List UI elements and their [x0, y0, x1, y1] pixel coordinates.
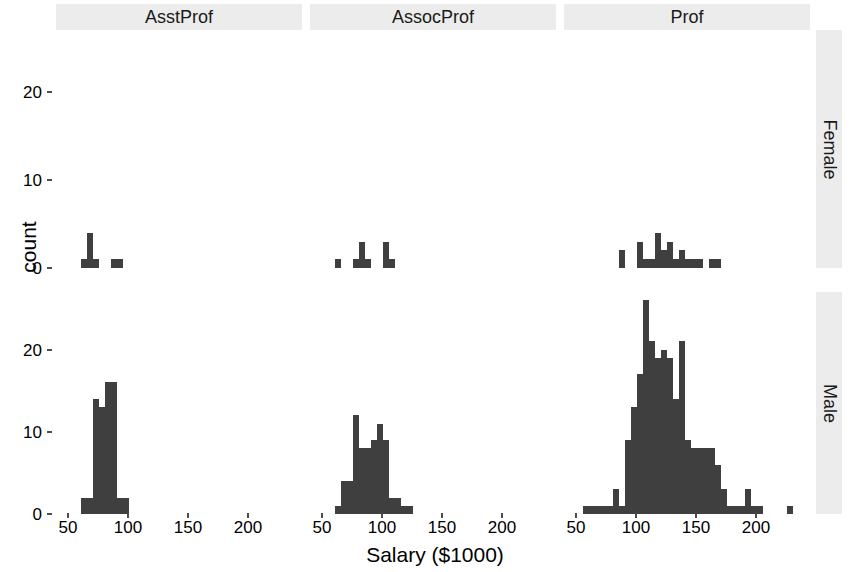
y-tick-label: 20	[8, 84, 42, 101]
panel-assocprof-male	[310, 292, 556, 514]
x-tick-mark	[187, 513, 189, 518]
panel-prof-male	[564, 292, 810, 514]
panel-asstprof-male	[56, 292, 302, 514]
x-tick-mark	[441, 513, 443, 518]
x-tick-mark	[67, 513, 69, 518]
histogram-bar	[407, 506, 413, 514]
facet-strip-row-female: Female	[816, 30, 842, 268]
facet-strip-col-prof: Prof	[564, 4, 810, 30]
x-tick-mark	[247, 513, 249, 518]
x-tick-label: 50	[50, 519, 86, 536]
facet-strip-row-male: Male	[816, 292, 842, 514]
histogram-bar	[93, 259, 99, 268]
histogram-bar	[335, 259, 341, 268]
facet-strip-col-label: Prof	[670, 7, 703, 28]
histogram-bar	[111, 382, 117, 514]
histogram-bar	[389, 259, 395, 268]
y-tick-mark	[47, 431, 52, 433]
facet-strip-col-assocprof: AssocProf	[310, 4, 556, 30]
x-axis-title: Salary ($1000)	[55, 543, 815, 567]
x-tick-mark	[575, 513, 577, 518]
facet-strip-row-label: Female	[819, 119, 840, 179]
facet-strip-col-asstprof: AsstProf	[56, 4, 302, 30]
x-tick-label: 100	[110, 519, 146, 536]
y-tick-mark	[47, 91, 52, 93]
x-tick-mark	[381, 513, 383, 518]
x-tick-label: 150	[170, 519, 206, 536]
x-tick-label: 100	[618, 519, 654, 536]
x-tick-mark	[127, 513, 129, 518]
y-tick-label: 20	[8, 342, 42, 359]
y-tick-mark	[47, 349, 52, 351]
x-tick-label: 50	[304, 519, 340, 536]
x-tick-label: 200	[738, 519, 774, 536]
histogram-bar	[757, 506, 763, 514]
faceted-histogram-chart: AsstProfAssocProfProfFemaleMale010200102…	[0, 0, 854, 572]
x-tick-mark	[321, 513, 323, 518]
y-tick-label: 10	[8, 424, 42, 441]
histogram-bar	[787, 506, 793, 514]
x-tick-mark	[695, 513, 697, 518]
y-tick-label: 0	[8, 506, 42, 523]
x-tick-label: 200	[230, 519, 266, 536]
y-axis-title: count	[17, 192, 41, 302]
histogram-bar	[619, 250, 625, 268]
facet-strip-col-label: AssocProf	[392, 7, 474, 28]
histogram-bar	[365, 259, 371, 268]
facet-strip-row-label: Male	[819, 383, 840, 422]
panel-asstprof-female	[56, 30, 302, 268]
y-tick-mark	[47, 179, 52, 181]
x-tick-mark	[501, 513, 503, 518]
x-tick-mark	[755, 513, 757, 518]
x-tick-label: 200	[484, 519, 520, 536]
y-tick-mark	[47, 513, 52, 515]
panel-prof-female	[564, 30, 810, 268]
x-tick-label: 150	[678, 519, 714, 536]
histogram-bar	[123, 498, 129, 514]
histogram-bar	[117, 259, 123, 268]
x-tick-label: 100	[364, 519, 400, 536]
y-tick-label: 10	[8, 172, 42, 189]
y-tick-mark	[47, 267, 52, 269]
x-tick-mark	[635, 513, 637, 518]
facet-strip-col-label: AsstProf	[145, 7, 213, 28]
histogram-bar	[715, 259, 721, 268]
panel-assocprof-female	[310, 30, 556, 268]
x-tick-label: 50	[558, 519, 594, 536]
histogram-bar	[697, 259, 703, 268]
x-tick-label: 150	[424, 519, 460, 536]
